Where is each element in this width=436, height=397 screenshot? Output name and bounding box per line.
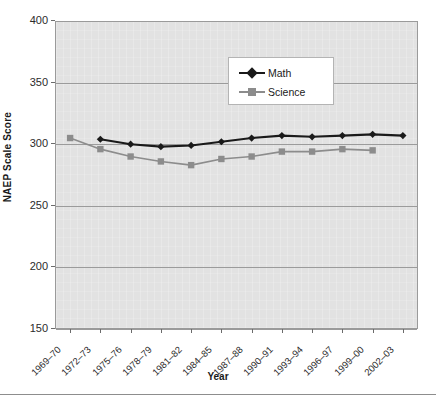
- x-tick-mark: [131, 329, 132, 333]
- gridline: [56, 206, 417, 207]
- gridline: [56, 329, 417, 330]
- y-tick-label: 350: [18, 76, 48, 88]
- legend-marker-diamond-icon: [239, 67, 265, 79]
- legend-item-science: Science: [239, 82, 333, 101]
- x-tick-mark: [100, 329, 101, 333]
- x-tick-mark: [252, 329, 253, 333]
- legend-label-science: Science: [268, 86, 305, 98]
- y-tick-mark: [51, 328, 55, 329]
- y-tick-mark: [51, 205, 55, 206]
- chart-legend: Math Science: [228, 57, 334, 105]
- gridline: [56, 144, 417, 145]
- legend-item-math: Math: [239, 63, 333, 82]
- y-tick-label: 150: [18, 322, 48, 334]
- x-tick-mark: [221, 329, 222, 333]
- x-tick-mark: [191, 329, 192, 333]
- y-axis-title: NAEP Scale Score: [2, 112, 16, 202]
- x-tick-mark: [312, 329, 313, 333]
- chart-figure: 150200250300350400 NAEP Scale Score 1969…: [0, 0, 436, 397]
- y-tick-label: 200: [18, 260, 48, 272]
- legend-label-math: Math: [268, 67, 291, 79]
- x-tick-mark: [403, 329, 404, 333]
- page-divider: [0, 394, 436, 395]
- y-tick-mark: [51, 82, 55, 83]
- x-tick-mark: [282, 329, 283, 333]
- x-tick-mark: [342, 329, 343, 333]
- y-tick-mark: [51, 143, 55, 144]
- x-axis-title: Year: [0, 371, 436, 382]
- x-tick-mark: [161, 329, 162, 333]
- y-tick-mark: [51, 266, 55, 267]
- y-tick-mark: [51, 20, 55, 21]
- x-tick-mark: [373, 329, 374, 333]
- y-tick-label: 400: [18, 14, 48, 26]
- y-tick-label: 300: [18, 137, 48, 149]
- gridline: [56, 267, 417, 268]
- x-tick-mark: [70, 329, 71, 333]
- legend-marker-square-icon: [239, 86, 265, 98]
- y-tick-label: 250: [18, 199, 48, 211]
